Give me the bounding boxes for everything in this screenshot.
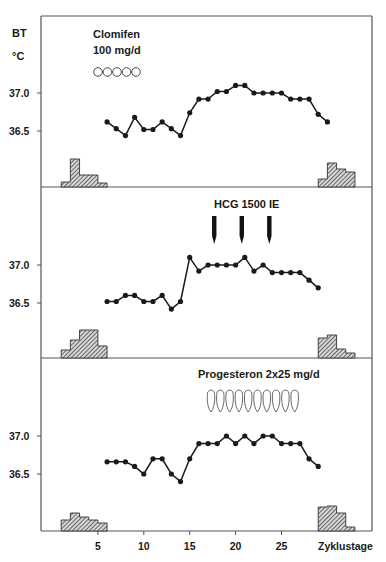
temperature-point [187, 110, 192, 115]
temperature-point [178, 479, 183, 484]
injection-arrow-icon [212, 216, 216, 244]
temperature-point [242, 433, 247, 438]
temperature-point [325, 119, 330, 124]
x-axis-label: Zyklustage [318, 540, 373, 552]
temperature-point [104, 459, 109, 464]
temperature-point [251, 268, 256, 273]
temperature-point [141, 299, 146, 304]
bbt-chart: BT °C 37.036.537.036.537.036.5 510152025… [0, 0, 386, 562]
temperature-point [242, 255, 247, 260]
temperature-point [104, 299, 109, 304]
injection-arrow-icon [267, 216, 271, 244]
temperature-point [215, 441, 220, 446]
menstruation-bar [61, 330, 107, 358]
temperature-point [123, 133, 128, 138]
menstruation-histograms [61, 159, 355, 531]
temperature-point [306, 278, 311, 283]
capsule-icon [272, 390, 279, 412]
temperature-point [261, 262, 266, 267]
temperature-point [261, 433, 266, 438]
y-tick-label: 36.5 [9, 297, 30, 309]
temperature-point [169, 471, 174, 476]
temperature-point [297, 441, 302, 446]
temperature-point [233, 83, 238, 88]
chart-frame [41, 16, 372, 531]
temperature-point [270, 433, 275, 438]
temperature-point [270, 270, 275, 275]
menstruation-bar [318, 506, 355, 531]
y-tick-label: 36.5 [9, 468, 30, 480]
menstruation-bar [318, 335, 355, 358]
temperature-point [187, 255, 192, 260]
temperature-line [107, 257, 318, 309]
hcg-injection-arrows [212, 216, 271, 244]
x-tick-label: 15 [184, 540, 196, 552]
x-ticks: 510152025 [95, 531, 288, 552]
temperature-point [316, 464, 321, 469]
temperature-point [123, 459, 128, 464]
temperature-point [306, 456, 311, 461]
temperature-point [297, 270, 302, 275]
pill-circle-icon [132, 68, 141, 77]
temperature-point [178, 299, 183, 304]
temperature-point [288, 270, 293, 275]
capsule-icon [254, 390, 261, 412]
temperature-point [150, 299, 155, 304]
capsule-icon [291, 390, 298, 412]
menstruation-bar [318, 163, 355, 187]
pill-circle-icon [103, 68, 112, 77]
temperature-point [123, 293, 128, 298]
drug-label-hcg: HCG 1500 IE [214, 198, 279, 210]
temperature-point [132, 293, 137, 298]
temperature-point [279, 270, 284, 275]
temperature-point [251, 441, 256, 446]
menstruation-bar [61, 159, 107, 187]
temperature-point [196, 96, 201, 101]
y-tick-label: 37.0 [9, 259, 30, 271]
temperature-point [242, 83, 247, 88]
temperature-line [107, 436, 318, 482]
temperature-point [205, 262, 210, 267]
progesteron-capsule-icons [207, 390, 298, 412]
temperature-point [205, 441, 210, 446]
x-tick-label: 20 [230, 540, 242, 552]
temperature-point [279, 90, 284, 95]
temperature-point [114, 299, 119, 304]
temperature-point [114, 126, 119, 131]
drug-label-progesteron: Progesteron 2x25 mg/d [198, 368, 320, 380]
temperature-curves [104, 83, 330, 484]
temperature-point [297, 96, 302, 101]
temperature-point [279, 441, 284, 446]
menstruation-bar [61, 513, 107, 531]
temperature-point [169, 126, 174, 131]
temperature-point [288, 96, 293, 101]
drug-label-clomifen: Clomifen [93, 28, 140, 40]
pill-circle-icon [94, 68, 103, 77]
y-tick-label: 37.0 [9, 87, 30, 99]
capsule-icon [217, 390, 224, 412]
temperature-point [114, 459, 119, 464]
y-unit-celsius: °C [12, 50, 24, 62]
temperature-point [288, 441, 293, 446]
temperature-point [215, 89, 220, 94]
y-unit-bt: BT [12, 27, 27, 39]
temperature-point [261, 90, 266, 95]
temperature-point [306, 96, 311, 101]
y-tick-label: 37.0 [9, 430, 30, 442]
temperature-point [160, 456, 165, 461]
capsule-icon [207, 390, 214, 412]
x-tick-label: 10 [138, 540, 150, 552]
temperature-point [160, 293, 165, 298]
temperature-point [141, 127, 146, 132]
temperature-point [224, 89, 229, 94]
temperature-point [104, 119, 109, 124]
temperature-point [205, 96, 210, 101]
temperature-point [141, 471, 146, 476]
temperature-point [132, 115, 137, 120]
temperature-point [316, 285, 321, 290]
temperature-point [196, 441, 201, 446]
temperature-point [187, 456, 192, 461]
capsule-icon [226, 390, 233, 412]
dose-label-clomifen: 100 mg/d [93, 44, 141, 56]
clomifen-pill-icons [94, 68, 141, 77]
